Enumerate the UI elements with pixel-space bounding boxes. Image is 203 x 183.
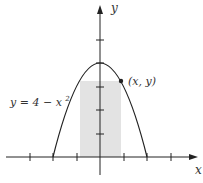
parabola-diagram: y x (x, y) y = 4 − x 2 [0, 0, 203, 183]
point-marker [119, 79, 123, 83]
y-axis-label: y [110, 1, 118, 15]
equation-exponent: 2 [64, 95, 70, 103]
x-axis-arrow-icon [189, 154, 198, 160]
equation-text: y = 4 − x [9, 96, 63, 109]
point-label: (x, y) [128, 75, 156, 88]
y-axis-arrow-icon [97, 5, 103, 14]
equation-label: y = 4 − x 2 [9, 95, 70, 109]
x-axis-label: x [195, 163, 202, 177]
